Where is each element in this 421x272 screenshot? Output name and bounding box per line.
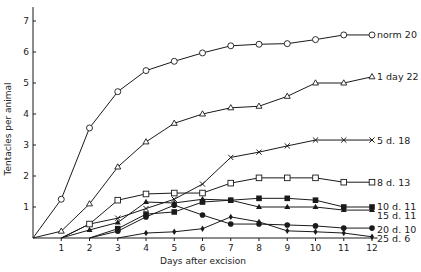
series-label: 15 d. 11 [377, 210, 416, 221]
data-point [171, 190, 177, 196]
series-label: 5 d. 18 [377, 135, 410, 146]
data-point [256, 41, 262, 47]
data-point [228, 221, 234, 227]
series-label: 8 d. 13 [377, 177, 410, 188]
data-point [143, 206, 148, 211]
data-point [369, 225, 375, 231]
data-point [313, 223, 319, 229]
series-norm-20 [33, 32, 375, 238]
data-point [313, 175, 319, 181]
x-tick-label: 6 [200, 243, 206, 253]
data-point [284, 175, 290, 181]
data-point [341, 179, 347, 185]
data-point [115, 89, 121, 95]
line-chart-svg: 1234567891011121234567 norm 201 day 225 … [0, 0, 421, 272]
data-point [284, 196, 290, 202]
x-tick-label: 11 [338, 243, 349, 253]
data-point [171, 202, 177, 208]
data-point [313, 204, 319, 209]
data-point [87, 125, 93, 131]
data-point [313, 80, 319, 85]
data-point [143, 68, 149, 74]
series-label: norm 20 [377, 29, 417, 40]
data-point [144, 230, 148, 236]
x-tick-label: 9 [284, 243, 290, 253]
x-tick-label: 4 [143, 243, 149, 253]
data-point [143, 214, 149, 220]
data-point [314, 229, 318, 235]
data-point [143, 191, 149, 197]
data-point [369, 179, 375, 185]
data-point [313, 37, 319, 43]
y-tick-label: 1 [23, 202, 29, 212]
data-point [228, 43, 234, 49]
x-axis-title: Days after excision [160, 256, 246, 266]
y-axis-title: Tentacles per animal [3, 82, 13, 176]
data-point [171, 209, 177, 215]
data-point [201, 226, 205, 232]
data-point [369, 74, 375, 79]
data-point [87, 221, 93, 227]
series-label: 1 day 22 [377, 71, 419, 82]
y-tick-label: 6 [23, 47, 29, 57]
x-tick-label: 12 [366, 243, 377, 253]
data-point [341, 32, 347, 38]
data-point [313, 197, 319, 203]
data-point [284, 222, 290, 228]
series-layer [33, 32, 375, 240]
data-point [342, 230, 346, 236]
data-point [200, 50, 206, 56]
x-tick-label: 1 [58, 243, 64, 253]
data-point [143, 139, 149, 144]
x-tick-label: 8 [256, 243, 262, 253]
x-tick-label: 7 [228, 243, 234, 253]
data-point [143, 199, 149, 204]
data-point [200, 196, 206, 201]
y-tick-label: 5 [23, 78, 29, 88]
data-point [171, 58, 177, 64]
data-point [256, 196, 262, 202]
series-8-d-13 [61, 175, 375, 238]
data-point [369, 32, 375, 38]
data-point [172, 229, 176, 235]
data-point [58, 196, 64, 202]
data-point [115, 197, 121, 203]
x-tick-label: 5 [171, 243, 177, 253]
x-tick-label: 2 [87, 243, 93, 253]
data-point [256, 175, 262, 181]
data-point [200, 190, 206, 196]
x-tick-label: 3 [115, 243, 121, 253]
series-labels: norm 201 day 225 d. 188 d. 1310 d. 1115 … [377, 29, 419, 244]
series-25-d-6 [118, 214, 374, 240]
data-point [200, 212, 206, 218]
data-point [370, 234, 374, 240]
y-tick-label: 4 [23, 109, 29, 119]
tentacle-regeneration-chart: 1234567891011121234567 norm 201 day 225 … [0, 0, 421, 272]
y-tick-label: 7 [23, 16, 29, 26]
y-tick-label: 2 [23, 171, 29, 181]
data-point [284, 204, 290, 209]
data-point [200, 181, 205, 186]
series-label: 25 d. 6 [377, 233, 410, 244]
y-tick-label: 3 [23, 140, 29, 150]
data-point [115, 228, 121, 234]
data-point [228, 180, 234, 186]
x-tick-label: 10 [310, 243, 322, 253]
data-point [284, 41, 290, 47]
data-point [285, 228, 289, 234]
data-point [229, 214, 233, 220]
